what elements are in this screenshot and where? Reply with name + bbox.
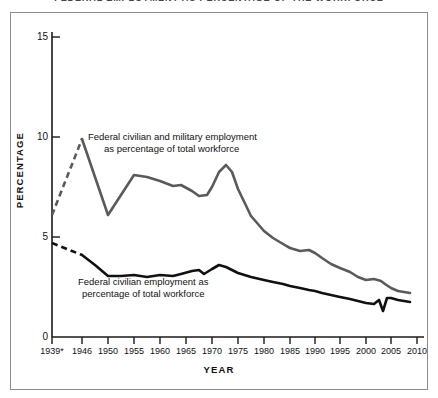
series-civilian-dashed [52, 243, 82, 255]
y-tick-label-15: 15 [26, 31, 48, 42]
annotation-civilian-series: Federal civilian employment as percentag… [78, 276, 208, 300]
x-tick-label-2010: 2010 [397, 346, 437, 356]
annotation-total-line1: Federal civilian and military employment [88, 131, 257, 142]
plot-area: 15 10 5 0 1939* 1946 1950 1955 1960 1965… [0, 0, 438, 398]
x-tick-marks [52, 337, 417, 344]
chart-svg [0, 0, 438, 398]
annotation-total-series: Federal civilian and military employment… [88, 131, 257, 155]
annotation-civilian-line1: Federal civilian employment as [78, 276, 208, 287]
annotation-civilian-line2: percentage of total workforce [82, 288, 205, 299]
x-axis-title: YEAR [0, 364, 438, 375]
series-total-dashed [52, 139, 82, 215]
y-tick-label-5: 5 [26, 231, 48, 242]
series-total-line [82, 139, 410, 293]
chart-figure: FEDERAL EMPLOYMENT AS PERCENTAGE OF THE … [0, 0, 438, 398]
y-tick-label-0: 0 [26, 331, 48, 342]
y-tick-marks [52, 37, 60, 237]
y-axis-title: PERCENTAGE [14, 132, 30, 208]
annotation-total-line2: as percentage of total workforce [88, 143, 257, 155]
